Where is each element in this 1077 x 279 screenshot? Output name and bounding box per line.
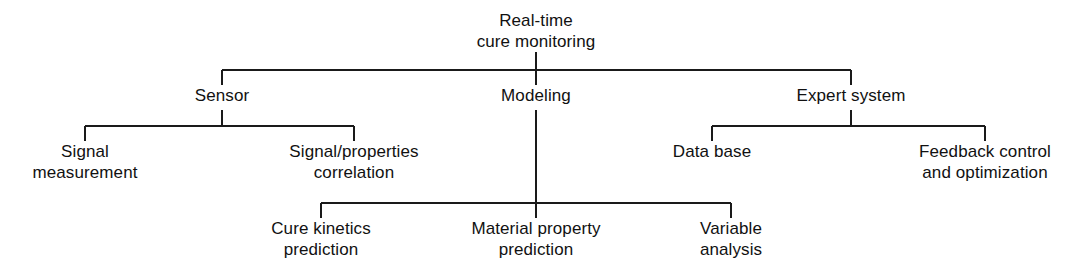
node-signal-measurement-line-1: Signal	[32, 141, 137, 162]
node-sensor-line-1: Sensor	[195, 85, 249, 106]
node-modeling-line-1: Modeling	[501, 85, 571, 106]
node-variable-analysis-line-2: analysis	[700, 239, 762, 260]
cure-monitoring-hierarchy-diagram: Real-timecure monitoringSensorModelingEx…	[0, 0, 1077, 279]
node-modeling[interactable]: Modeling	[501, 85, 571, 106]
node-material-property-prediction-line-2: prediction	[471, 239, 600, 260]
node-material-property-prediction-line-1: Material property	[471, 218, 600, 239]
node-data-base-line-1: Data base	[673, 141, 751, 162]
node-data-base[interactable]: Data base	[673, 141, 751, 162]
node-cure-kinetics-prediction-line-1: Cure kinetics	[271, 218, 371, 239]
node-sensor[interactable]: Sensor	[195, 85, 249, 106]
node-signal-properties-correlation[interactable]: Signal/propertiescorrelation	[289, 141, 418, 183]
node-root-line-2: cure monitoring	[477, 31, 596, 52]
node-signal-measurement[interactable]: Signalmeasurement	[32, 141, 137, 183]
node-feedback-control-and-optimization[interactable]: Feedback controland optimization	[919, 141, 1051, 183]
node-feedback-control-and-optimization-line-2: and optimization	[919, 162, 1051, 183]
node-signal-properties-correlation-line-1: Signal/properties	[289, 141, 418, 162]
node-variable-analysis-line-1: Variable	[700, 218, 762, 239]
node-cure-kinetics-prediction-line-2: prediction	[271, 239, 371, 260]
node-expert-system[interactable]: Expert system	[797, 85, 906, 106]
node-signal-measurement-line-2: measurement	[32, 162, 137, 183]
node-cure-kinetics-prediction[interactable]: Cure kineticsprediction	[271, 218, 371, 260]
node-root-line-1: Real-time	[477, 10, 596, 31]
node-feedback-control-and-optimization-line-1: Feedback control	[919, 141, 1051, 162]
connector-group	[85, 52, 985, 218]
node-root[interactable]: Real-timecure monitoring	[477, 10, 596, 52]
node-material-property-prediction[interactable]: Material propertyprediction	[471, 218, 600, 260]
node-signal-properties-correlation-line-2: correlation	[289, 162, 418, 183]
node-variable-analysis[interactable]: Variableanalysis	[700, 218, 762, 260]
node-expert-system-line-1: Expert system	[797, 85, 906, 106]
